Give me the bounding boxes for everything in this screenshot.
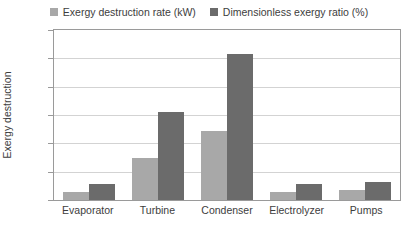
x-tick-label: Electrolyzer bbox=[262, 204, 332, 216]
bar-dimensionless-exergy-ratio bbox=[158, 112, 184, 200]
bar-dimensionless-exergy-ratio bbox=[227, 54, 253, 200]
x-tick-label: Condenser bbox=[192, 204, 262, 216]
legend-swatch-light-icon bbox=[50, 8, 58, 16]
plot-area bbox=[53, 29, 401, 201]
x-tick-label: Turbine bbox=[123, 204, 193, 216]
y-axis-title: Exergy destruction bbox=[0, 29, 14, 201]
bar-exergy-destruction-rate bbox=[63, 192, 89, 201]
bar-exergy-destruction-rate bbox=[201, 131, 227, 200]
bars-layer bbox=[54, 30, 400, 200]
y-axis-title-text: Exergy destruction bbox=[1, 72, 13, 159]
bar-dimensionless-exergy-ratio bbox=[89, 184, 115, 200]
legend-label-exergy-destruction-rate: Exergy destruction rate (kW) bbox=[63, 7, 196, 18]
legend-label-dimensionless-exergy-ratio: Dimensionless exergy ratio (%) bbox=[223, 7, 368, 18]
bar-chart: Exergy destruction rate (kW) Dimensionle… bbox=[0, 0, 418, 232]
bar-exergy-destruction-rate bbox=[339, 190, 365, 200]
bar-group bbox=[262, 30, 331, 200]
bar-group bbox=[54, 30, 123, 200]
legend-swatch-dark-icon bbox=[210, 8, 218, 16]
x-tick-label: Evaporator bbox=[53, 204, 123, 216]
bar-group bbox=[123, 30, 192, 200]
bar-exergy-destruction-rate bbox=[132, 158, 158, 201]
x-axis-labels: EvaporatorTurbineCondenserElectrolyzerPu… bbox=[53, 204, 401, 216]
x-tick-label: Pumps bbox=[331, 204, 401, 216]
bar-exergy-destruction-rate bbox=[270, 192, 296, 201]
chart-legend: Exergy destruction rate (kW) Dimensionle… bbox=[0, 4, 418, 20]
legend-item-dimensionless-exergy-ratio: Dimensionless exergy ratio (%) bbox=[210, 7, 368, 18]
legend-item-exergy-destruction-rate: Exergy destruction rate (kW) bbox=[50, 7, 196, 18]
bar-group bbox=[331, 30, 400, 200]
bar-dimensionless-exergy-ratio bbox=[365, 182, 391, 200]
bar-dimensionless-exergy-ratio bbox=[296, 184, 322, 200]
bar-group bbox=[192, 30, 261, 200]
